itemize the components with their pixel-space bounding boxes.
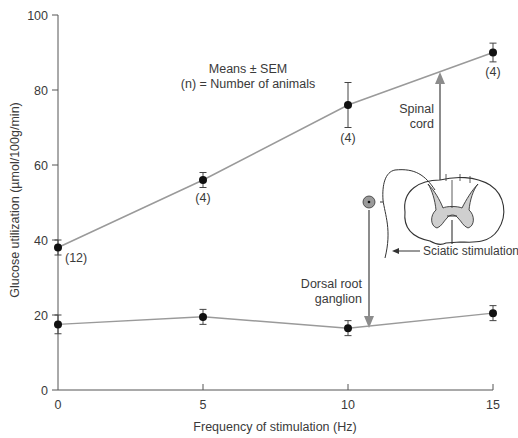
x-axis-ticks: 051015	[55, 384, 500, 412]
data-point	[54, 244, 62, 252]
x-axis-label: Frequency of stimulation (Hz)	[193, 420, 356, 434]
y-tick-label: 80	[34, 84, 48, 98]
n-animals-label: (12)	[65, 251, 87, 265]
label-spinal-cord-line2: cord	[410, 117, 434, 131]
y-tick-label: 40	[34, 234, 48, 248]
y-axis-ticks: 020406080100	[27, 9, 58, 398]
x-tick-label: 0	[55, 398, 62, 412]
label-sciatic-stimulation: Sciatic stimulation	[423, 244, 518, 258]
data-point	[489, 309, 497, 317]
x-tick-label: 10	[341, 398, 355, 412]
glucose-utilization-chart: 020406080100 051015 Frequency of stimula…	[0, 0, 518, 438]
label-spinal-cord-line1: Spinal	[399, 102, 434, 116]
y-tick-label: 100	[27, 9, 48, 23]
data-point	[344, 324, 352, 332]
legend-means-sem: Means ± SEM	[209, 62, 287, 76]
data-point	[54, 320, 62, 328]
series-line	[58, 313, 493, 328]
y-tick-label: 20	[34, 309, 48, 323]
label-dorsal-root-line2: ganglion	[315, 292, 362, 306]
x-tick-label: 5	[200, 398, 207, 412]
data-point	[344, 101, 352, 109]
data-point	[489, 49, 497, 57]
y-axis-label: Glucose utilization (µmol/100g/min)	[8, 102, 22, 297]
label-dorsal-root-line1: Dorsal root	[301, 277, 363, 291]
data-point	[199, 176, 207, 184]
n-animals-label: (4)	[340, 131, 355, 145]
legend-n-animals: (n) = Number of animals	[181, 77, 315, 91]
y-tick-label: 60	[34, 159, 48, 173]
y-tick-label: 0	[41, 384, 48, 398]
n-animals-label: (4)	[195, 191, 210, 205]
data-point	[199, 313, 207, 321]
n-animals-label: (4)	[485, 65, 500, 79]
x-tick-label: 15	[486, 398, 500, 412]
